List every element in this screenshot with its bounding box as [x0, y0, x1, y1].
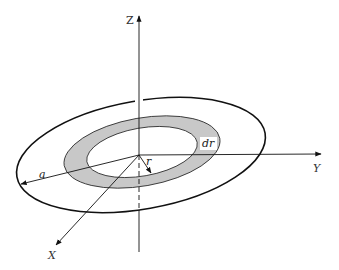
- z-axis-label: Z: [126, 14, 134, 27]
- disk-diagram: Z Y X a r dr: [0, 0, 339, 270]
- ring-element: [58, 105, 225, 199]
- ring-radius-label: r: [146, 155, 152, 168]
- x-axis-label: X: [47, 249, 57, 262]
- y-axis-label: Y: [313, 162, 322, 175]
- outer-radius-label: a: [39, 168, 46, 181]
- ring-width-label: dr: [202, 137, 215, 150]
